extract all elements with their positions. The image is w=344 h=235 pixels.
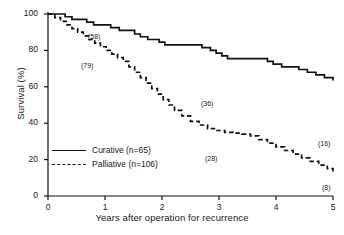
y-tick-label: 40: [12, 117, 38, 127]
legend-label-palliative: Palliative (n=106): [92, 159, 158, 169]
at-risk-label: (28): [205, 155, 217, 162]
y-tick-label: 100: [12, 8, 38, 18]
at-risk-label: (8): [322, 184, 331, 191]
legend-item-palliative: Palliative (n=106): [52, 157, 158, 171]
x-tick-label: 0: [38, 202, 58, 212]
legend-swatch-dashed-icon: [52, 164, 86, 165]
x-tick-label: 3: [209, 202, 229, 212]
at-risk-label: (36): [201, 100, 213, 107]
chart-legend: Curative (n=65) Palliative (n=106): [52, 143, 158, 171]
legend-item-curative: Curative (n=65): [52, 143, 158, 157]
survival-chart-figure: Survival (%) Years after operation for r…: [0, 0, 344, 235]
x-tick-label: 5: [323, 202, 343, 212]
plot-area: [0, 0, 344, 235]
at-risk-label: (79): [81, 62, 93, 69]
x-tick-label: 1: [95, 202, 115, 212]
y-tick-label: 80: [12, 44, 38, 54]
x-tick-label: 4: [266, 202, 286, 212]
at-risk-label: (58): [88, 33, 100, 40]
legend-label-curative: Curative (n=65): [92, 145, 151, 155]
y-tick-label: 60: [12, 81, 38, 91]
x-tick-label: 2: [152, 202, 172, 212]
y-tick-label: 0: [12, 190, 38, 200]
series-line-curative: [48, 14, 333, 80]
y-tick-label: 20: [12, 154, 38, 164]
legend-swatch-solid-icon: [52, 150, 86, 151]
at-risk-label: (16): [318, 140, 330, 147]
